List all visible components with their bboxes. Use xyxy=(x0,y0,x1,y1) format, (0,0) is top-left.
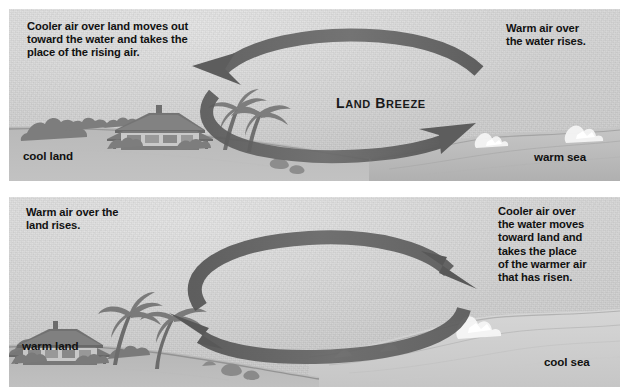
land-breeze-rest-reeze: REEZE xyxy=(386,98,426,110)
land-breeze-initial-l: L xyxy=(336,95,345,111)
caption-cooler-air-over-water: Cooler air over the water moves toward l… xyxy=(498,205,586,284)
land-breeze-initial-b: B xyxy=(375,95,386,111)
caption-warm-air-over-water: Warm air over the water rises. xyxy=(506,22,586,48)
land-breeze-rest-and: AND xyxy=(345,98,371,110)
panel-land-breeze: Cooler air over land moves out toward th… xyxy=(9,9,620,181)
panel-sea-breeze: Warm air over the land rises. Cooler air… xyxy=(9,197,620,387)
arrowhead-lower-left xyxy=(169,313,223,349)
ground-label-cool-land: cool land xyxy=(23,149,73,162)
ground-label-cool-sea: cool sea xyxy=(544,355,590,368)
ground-label-warm-sea: warm sea xyxy=(534,150,586,163)
ground-label-warm-land: warm land xyxy=(22,339,78,352)
caption-cooler-air-over-land: Cooler air over land moves out toward th… xyxy=(27,20,188,60)
caption-warm-air-over-land: Warm air over the land rises. xyxy=(26,206,118,232)
circulation-arrows-sea-breeze xyxy=(169,237,477,357)
label-land-breeze: LAND BREEZE xyxy=(336,95,426,111)
